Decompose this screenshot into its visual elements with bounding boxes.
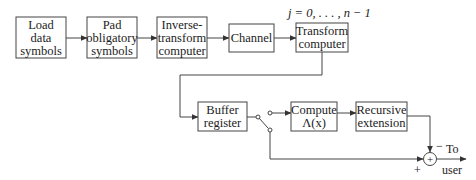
block-label: Recursive: [357, 103, 407, 117]
block-label: Inverse-: [162, 18, 203, 32]
compute-lambda-block: Compute Λ(x): [291, 102, 337, 131]
block-label: Λ(x): [302, 116, 326, 130]
index-range-label: j = 0, . . . , n − 1: [286, 6, 371, 20]
block-label: computer: [158, 44, 206, 58]
inverse-transform-computer-block: Inverse- transform computer: [157, 17, 207, 58]
block-label: symbols: [20, 44, 62, 58]
block-label: obligatory: [86, 31, 138, 45]
block-label: transform: [158, 31, 207, 45]
block-label: data: [31, 31, 52, 45]
output-label-user: user: [442, 163, 462, 177]
block-label: computer: [298, 37, 346, 51]
arrow: [407, 116, 430, 152]
summing-junction: +: [424, 153, 437, 166]
channel-block: Channel: [229, 24, 274, 52]
pad-obligatory-symbols-block: Pad obligatory symbols: [86, 17, 138, 58]
output-label-to: To: [446, 142, 459, 156]
switch: [247, 111, 272, 132]
block-label: Buffer: [206, 103, 239, 117]
plus-symbol: +: [427, 153, 433, 165]
decoder-block-diagram: Load data symbols Pad obligatory symbols…: [0, 0, 476, 180]
bypass-arrow: [270, 132, 423, 159]
block-label: Pad: [103, 18, 123, 32]
block-label: extension: [358, 116, 407, 130]
plus-sign-label: +: [414, 163, 421, 177]
minus-sign-label: −: [436, 139, 443, 153]
block-label: symbols: [91, 44, 133, 58]
block-label: Channel: [231, 31, 273, 45]
block-label: Load: [28, 18, 54, 32]
block-label: register: [204, 116, 242, 130]
load-data-symbols-block: Load data symbols: [16, 17, 66, 58]
buffer-register-block: Buffer register: [198, 102, 247, 131]
block-label: Compute: [291, 103, 337, 117]
recursive-extension-block: Recursive extension: [356, 102, 407, 131]
transform-computer-block: Transform computer: [296, 23, 349, 52]
block-label: Transform: [296, 24, 349, 38]
